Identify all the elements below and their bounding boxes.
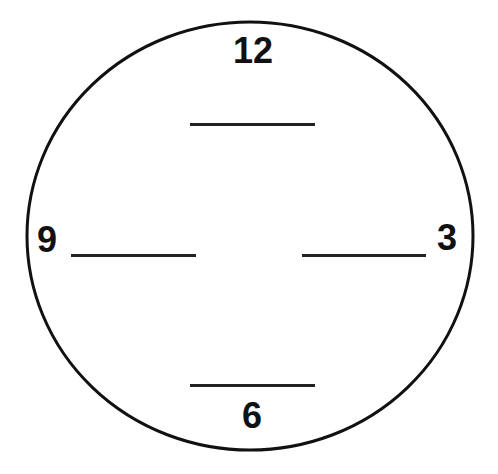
answer-blank-right[interactable] [302,254,426,257]
answer-blank-bottom[interactable] [190,384,315,387]
number-3: 3 [437,220,457,256]
number-12: 12 [233,33,273,69]
number-6: 6 [242,398,262,434]
number-9: 9 [37,222,57,258]
answer-blank-top[interactable] [190,123,315,126]
answer-blank-left[interactable] [71,254,196,257]
